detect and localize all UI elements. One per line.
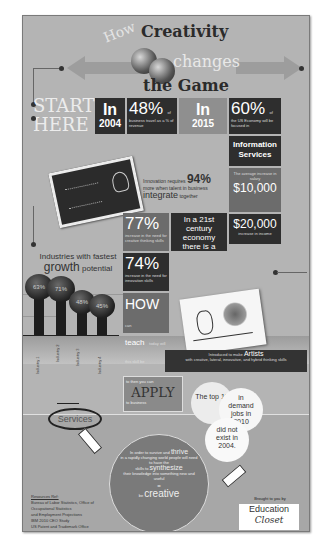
brought-by-label: Brought to you by (235, 496, 305, 501)
stat-desc: increase in the need for innovation skil… (125, 273, 167, 283)
connector-dot (31, 242, 36, 247)
connector-line (33, 68, 59, 69)
stat-desc: The average increase in salary (232, 171, 278, 181)
tree-bar-4: 45% (89, 294, 115, 336)
stat-value: $10,000 (232, 181, 278, 195)
stat-how: HOW can teach today will this skill be (123, 293, 169, 333)
services-underline (57, 403, 79, 404)
education-closet-logo[interactable]: Education Closet (239, 504, 299, 530)
innovation-prefix: Innovation requires (143, 178, 186, 184)
innovation-stat: Innovation requires 94% more when talent… (143, 176, 223, 200)
start-line1: START (33, 96, 95, 115)
connector-dot (59, 66, 64, 71)
stat-suffix: of (269, 110, 272, 115)
salary-20000-box: $20,000 increase in income (229, 214, 281, 244)
infographic-frame: How Creativity changes the Game START HE… (22, 15, 310, 532)
stat-value: $20,000 (232, 217, 278, 231)
stat-highlight: teach (125, 338, 145, 347)
stat-value: 77% (125, 215, 167, 233)
stat-year: 2004 (95, 118, 125, 129)
salary-10000-box: The average increase in salary $10,000 (229, 168, 281, 212)
stat-label: In (179, 101, 227, 118)
right-arrow-shaft (236, 62, 284, 74)
tree-crown: 45% (89, 294, 115, 318)
connector-line (277, 272, 307, 273)
paint-splatter-icon (220, 301, 249, 328)
innovation-suffix: together (179, 193, 197, 199)
stat-value: HOW (125, 296, 159, 312)
lightbulb-icon (110, 170, 130, 193)
chart-baseline (23, 335, 119, 336)
stat-desc: increase in the need for creative thinki… (125, 233, 167, 243)
stat-value: 60% (231, 99, 265, 118)
stat-desc: increase in income (232, 231, 278, 236)
stat-value: 48% (129, 99, 163, 118)
innovation-value: 94% (187, 172, 211, 186)
services-label: Services (48, 408, 102, 430)
tree-label-4: Industry 4 (97, 340, 102, 374)
credit-line: Partnership for 21st Century Skills (31, 530, 111, 532)
circle-line4: their knowledge into something new and u… (120, 471, 198, 481)
logo-bottom: Closet (239, 515, 299, 526)
stat-year: 2015 (179, 118, 227, 129)
stat-in-2004: In 2004 (95, 98, 125, 134)
title-how: How (101, 18, 137, 45)
artists-ribbon: Introduced to make Artists with creative… (165, 350, 307, 372)
apply-word: APPLY (124, 386, 182, 400)
chalk-scribble (65, 182, 102, 209)
economy-box: In a 21st century economy there is a (171, 213, 227, 251)
connector-line (33, 206, 34, 242)
title-the-game: the Game (143, 76, 229, 95)
start-here-label: START HERE (33, 96, 95, 134)
stat-suffix: of (167, 110, 170, 115)
logo-top: Education (239, 504, 299, 515)
ribbon-desc: with creative, lateral, innovative, and … (165, 357, 307, 362)
title-creativity: Creativity (141, 22, 228, 41)
industries-title: Industries with fastest growth potential (28, 252, 128, 274)
apply-box: to then you can APPLY to business (123, 376, 183, 412)
industries-tree-chart: 63% 71% 48% 45% (23, 274, 123, 336)
ribbon-artists: Artists (244, 350, 263, 357)
circle-creative: creative (144, 488, 179, 499)
circle-be: be (139, 493, 143, 498)
tree-label-3: Industry 3 (75, 340, 80, 366)
stat-label: In (95, 101, 125, 118)
tree-label-1: Industry 1 (35, 340, 40, 374)
creative-circle: In order to survive and thrive in a rapi… (109, 434, 209, 532)
credits: Resources Ref: Bureau of Labor Statistic… (31, 494, 111, 532)
economy-line4: there is a (171, 242, 227, 251)
economy-line1: In a 21st (171, 215, 227, 224)
left-arrow-icon (67, 56, 85, 80)
apply-bottom: to business (124, 400, 182, 405)
stat-value: 74% (125, 255, 167, 273)
connector-dot (299, 66, 304, 71)
stat-suffix: can (125, 323, 131, 328)
connector-dot (31, 116, 36, 121)
tree-label-2: Industry 2 (55, 340, 60, 362)
doodle-character-icon (195, 310, 214, 336)
stat-60-percent: 60% of the US Economy will be focused in (229, 98, 281, 134)
stat-in-2015: In 2015 (179, 98, 227, 134)
did-not-exist-circle: did not exist in 2004. (205, 418, 249, 462)
economy-line3: economy (171, 233, 227, 242)
industries-suffix: potential (82, 264, 112, 273)
artist-drawing-card (179, 289, 266, 356)
industries-growth: growth (44, 260, 80, 274)
credit-line: Bureau of Labor Statistics, Office of Oc… (31, 500, 111, 512)
economy-line2: century (171, 224, 227, 233)
stat-74-percent: 74% increase in the need for innovation … (123, 253, 169, 291)
circle-thrive: thrive (171, 448, 188, 455)
circle-synthesize: synthesize (150, 464, 183, 471)
stat-48-percent: 48% of business travel as a % of revenue (127, 98, 177, 134)
title-changes: changes (173, 52, 240, 71)
start-line2: HERE (33, 115, 95, 134)
stat-desc: the US Economy will be focused in (231, 118, 279, 128)
information-services-box: Information Services (229, 136, 281, 166)
stat-77-percent: 77% increase in the need for creative th… (123, 213, 169, 251)
innovation-highlight: integrate (143, 190, 178, 200)
stat-desc: business travel as a % of revenue (129, 118, 175, 128)
